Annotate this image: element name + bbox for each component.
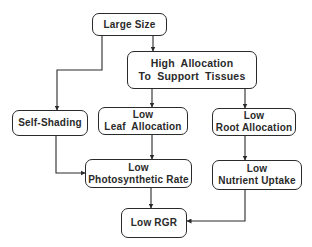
node-label: Low RGR [131, 217, 177, 229]
node-label: Large Size [103, 19, 155, 31]
edge-large-size-to-self-shading [57, 36, 102, 110]
node-label-line-1: High Allocation [151, 57, 234, 70]
node-low-root-allocation: Low Root Allocation [212, 108, 296, 136]
node-low-rgr: Low RGR [121, 208, 187, 238]
edge-nutrient-uptake-to-low-rgr [187, 190, 245, 221]
node-label-line-1: Low [128, 162, 149, 174]
node-low-leaf-allocation: Low Leaf Allocation [98, 107, 188, 135]
node-low-nutrient-uptake: Low Nutrient Uptake [212, 160, 302, 190]
node-large-size: Large Size [92, 13, 167, 36]
node-label-line-2: Leaf Allocation [104, 121, 181, 133]
flowchart-canvas: Large Size High Allocation To Support Ti… [0, 0, 312, 247]
node-label: Self-Shading [18, 117, 82, 129]
node-label-line-2: Root Allocation [216, 122, 293, 134]
edge-self-shading-to-photosynthetic-rate [56, 136, 85, 173]
node-high-allocation: High Allocation To Support Tissues [127, 51, 257, 89]
node-label-line-1: Low [244, 110, 265, 122]
node-label-line-2: Nutrient Uptake [218, 175, 295, 187]
node-self-shading: Self-Shading [12, 110, 88, 136]
node-label-line-1: Low [247, 163, 268, 175]
node-label-line-2: To Support Tissues [139, 70, 246, 83]
node-label-line-1: Low [133, 109, 154, 121]
node-label-line-2: Photosynthetic Rate [88, 174, 188, 186]
node-low-photosynthetic-rate: Low Photosynthetic Rate [85, 159, 192, 188]
